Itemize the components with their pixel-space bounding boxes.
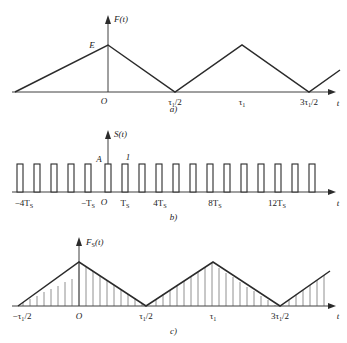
panel-b-y-axis-label: S(t) <box>114 129 127 139</box>
panel-b-caption: b) <box>0 212 347 222</box>
panel-b-xtick-5: 12TS <box>268 198 287 209</box>
panel-b-xtick-2: TS <box>121 198 131 209</box>
panel-c-sampled-signal: FS(t) −τ1/2 O τ1/2 τ1 3τ1/2 t c) <box>0 228 347 343</box>
panel-c-xtick-1: τ1/2 <box>139 311 153 322</box>
panel-b-x-axis-label: t <box>337 198 340 208</box>
panel-a-waveform <box>15 45 340 92</box>
panel-c-xtick-2: τ1 <box>210 311 217 322</box>
panel-b-pulse-width-label: 1 <box>126 152 131 162</box>
panel-c-x-axis-arrow <box>328 303 336 309</box>
panel-a-original-signal: E F(t) O τ1/2 τ1 3τ1/2 t a) <box>0 0 347 120</box>
panel-a-y-axis-label: F(t) <box>113 14 128 24</box>
panel-b-origin-label: O <box>101 197 108 207</box>
panel-c-x-axis-label: t <box>337 311 340 321</box>
panel-b-sampling-pulses: S(t) A 1 O −4TS −TS TS 4TS 8TS 12TS t b) <box>0 120 347 228</box>
panel-a-y-axis-arrow <box>105 15 111 24</box>
panel-c-xtick-3: 3τ1/2 <box>271 311 289 322</box>
panel-b-y-axis-arrow <box>105 130 111 139</box>
panel-c-sample-lines <box>23 262 324 306</box>
panel-c-caption: c) <box>0 326 347 336</box>
panel-c-y-axis-label: FS(t) <box>85 237 103 248</box>
panel-b-xtick-0: −4TS <box>15 198 34 209</box>
panel-b-amplitude-label: A <box>95 154 102 164</box>
panel-b-xtick-3: 4TS <box>153 198 167 209</box>
panel-b-xtick-1: −TS <box>81 198 96 209</box>
signal-sampling-figure: E F(t) O τ1/2 τ1 3τ1/2 t a) <box>0 0 347 343</box>
panel-c-origin-label: O <box>76 311 83 321</box>
panel-c-xtick-0: −τ1/2 <box>13 311 32 322</box>
panel-b-x-axis-arrow <box>328 189 336 195</box>
panel-a-caption: a) <box>0 104 347 114</box>
panel-c-y-axis-arrow <box>76 237 82 246</box>
panel-b-pulse-train <box>17 164 315 192</box>
panel-b-xtick-4: 8TS <box>208 198 222 209</box>
panel-a-x-axis-arrow <box>328 89 336 95</box>
panel-a-amplitude-label: E <box>88 40 95 50</box>
panel-a-plot: E F(t) O τ1/2 τ1 3τ1/2 t <box>0 0 347 120</box>
